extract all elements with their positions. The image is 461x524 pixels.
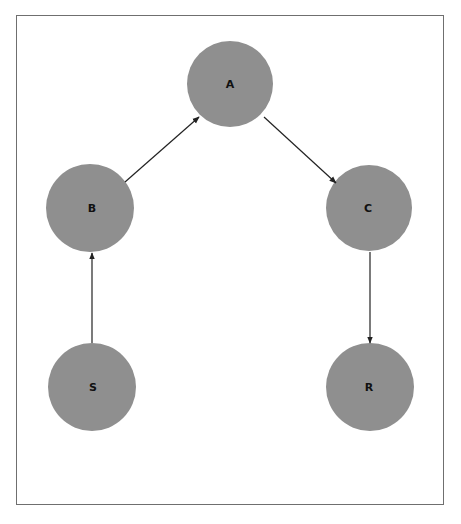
node-s-label: S bbox=[89, 381, 97, 394]
node-s: S bbox=[48, 343, 136, 431]
node-c: C bbox=[326, 165, 412, 251]
edges bbox=[92, 117, 370, 343]
node-a-label: A bbox=[226, 78, 235, 91]
edge-a-to-c bbox=[264, 117, 336, 183]
node-c-label: C bbox=[364, 202, 372, 215]
node-r: R bbox=[326, 343, 414, 431]
node-b: B bbox=[46, 164, 134, 252]
nodes: A B C S R bbox=[46, 41, 414, 431]
edge-b-to-a bbox=[125, 117, 199, 182]
graph-canvas: A B C S R bbox=[0, 0, 461, 524]
node-r-label: R bbox=[365, 381, 374, 394]
node-a: A bbox=[187, 41, 273, 127]
node-b-label: B bbox=[88, 202, 96, 215]
